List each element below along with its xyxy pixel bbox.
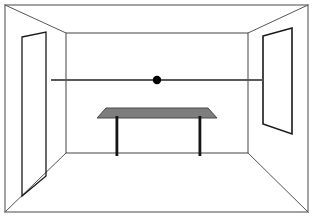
room-perspective-drawing bbox=[0, 0, 314, 219]
table-leg-left bbox=[116, 116, 119, 156]
drawing-canvas: One-Point Perspective Room Interior bbox=[0, 0, 314, 219]
table-leg-right bbox=[199, 116, 202, 156]
vanishing-point-dot bbox=[153, 76, 161, 84]
